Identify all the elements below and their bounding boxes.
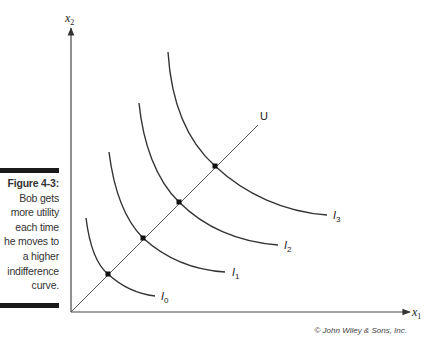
point-i1	[141, 236, 146, 241]
copyright-notice: © John Wiley & Sons, Inc.	[314, 326, 407, 335]
x-axis-label: x1	[411, 305, 421, 321]
point-i2	[177, 200, 182, 205]
point-i3	[213, 164, 218, 169]
curve-label-i2: I2	[284, 239, 292, 254]
indifference-curve-i1	[109, 152, 225, 272]
y-axis-label: x2	[64, 11, 74, 27]
point-i0	[106, 272, 111, 277]
utility-line-label: U	[260, 110, 268, 122]
utility-line	[71, 125, 258, 312]
curve-label-i1: I1	[232, 266, 240, 281]
curve-label-i0: I0	[161, 290, 169, 305]
indifference-curve-i0	[86, 218, 155, 296]
curve-label-i3: I3	[333, 209, 341, 224]
indifference-diagram: x2 x1 U I0 I1 I2 I3	[0, 0, 424, 346]
